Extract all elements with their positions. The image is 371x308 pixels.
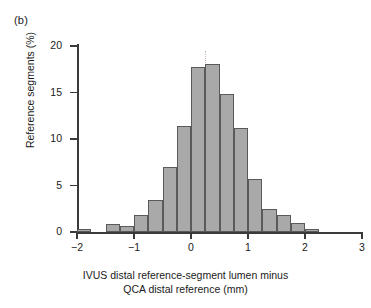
x-axis-title: IVUS distal reference-segment lumen minu… <box>0 268 371 296</box>
histogram-bar <box>106 224 120 232</box>
x-axis-title-line2: QCA distal reference (mm) <box>0 282 371 296</box>
histogram-bar <box>277 215 291 232</box>
histogram-bar <box>220 94 234 232</box>
histogram-bar <box>234 128 248 232</box>
histogram-bar <box>191 67 205 232</box>
histogram-bar <box>148 200 162 232</box>
histogram-bar <box>305 229 319 232</box>
histogram-bar <box>205 64 219 232</box>
histogram-bar <box>120 226 134 232</box>
x-axis-title-line1: IVUS distal reference-segment lumen minu… <box>0 268 371 282</box>
histogram-bar <box>291 223 305 232</box>
histogram-bar <box>248 179 262 232</box>
histogram-bar <box>77 229 91 232</box>
histogram-bar <box>163 167 177 232</box>
histogram-figure: (b) Reference segments (%) 05101520 −2−1… <box>0 0 371 308</box>
mode-marker <box>205 51 206 63</box>
plot-area: 05101520 −2−10123 <box>0 0 371 308</box>
histogram-bar <box>134 215 148 232</box>
histogram-bar <box>262 209 276 232</box>
histogram-bars <box>0 0 371 308</box>
histogram-bar <box>177 126 191 232</box>
